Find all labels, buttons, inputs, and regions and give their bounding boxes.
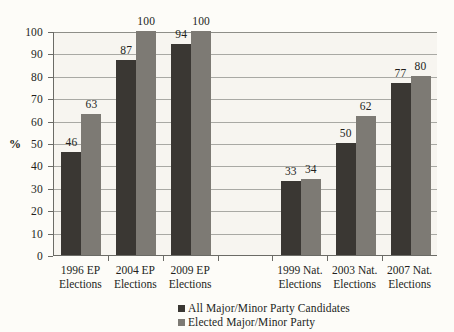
x-category-label: 2004 EPElections — [114, 264, 157, 291]
bar-value-label: 63 — [85, 98, 97, 110]
gridline — [54, 77, 437, 78]
bar-value-label: 62 — [360, 100, 372, 112]
x-category-label: 2007 Nat.Elections — [387, 264, 432, 291]
bar-value-label: 46 — [65, 136, 77, 148]
y-tick-label: 10 — [31, 228, 43, 240]
bar-value-label: 100 — [192, 15, 210, 27]
x-category-label-line: 1999 Nat. — [277, 264, 322, 278]
y-tick-mark — [48, 256, 53, 257]
gridline — [54, 189, 437, 190]
gridline — [54, 54, 437, 55]
x-category-label-line: 2004 EP — [114, 264, 157, 278]
x-category-label-line: Elections — [332, 278, 377, 292]
legend-swatch-icon — [178, 305, 185, 312]
bar-value-label: 100 — [137, 15, 155, 27]
plot-area: 46638710094100333450627780 — [53, 32, 437, 256]
bar-value-label: 94 — [175, 28, 187, 40]
bar-value-label: 33 — [285, 165, 297, 177]
y-tick-label: 100 — [25, 26, 43, 38]
bar-value-label: 80 — [415, 60, 427, 72]
x-tick-mark — [327, 256, 328, 261]
x-category-label: 2003 Nat.Elections — [332, 264, 377, 291]
bar-chart: 0102030405060708090100% 4663871009410033… — [0, 0, 454, 332]
x-category-label-line: Elections — [387, 278, 432, 292]
gridline — [54, 32, 437, 33]
bar: 63 — [81, 114, 101, 255]
gridline — [54, 166, 437, 167]
bar-group: 3334 — [281, 32, 321, 255]
bar: 100 — [191, 31, 211, 255]
legend-item[interactable]: All Major/Minor Party Candidates — [178, 301, 350, 315]
bar-group: 87100 — [116, 32, 156, 255]
gridline — [54, 144, 437, 145]
x-category-label-line: Elections — [114, 278, 157, 292]
gridline — [54, 211, 437, 212]
bar-value-label: 87 — [120, 44, 132, 56]
bar-value-label: 34 — [305, 163, 317, 175]
bar-value-label: 77 — [395, 67, 407, 79]
x-category-label: 1996 EPElections — [59, 264, 102, 291]
y-tick-label: 0 — [37, 250, 43, 262]
legend-swatch-icon — [178, 319, 185, 326]
x-category-label-line: 2009 EP — [169, 264, 212, 278]
y-axis: 0102030405060708090100% — [0, 0, 53, 332]
bar: 62 — [356, 116, 376, 255]
x-tick-mark — [218, 256, 219, 261]
y-tick-label: 30 — [31, 183, 43, 195]
bar: 94 — [171, 44, 191, 255]
bar: 80 — [411, 76, 431, 255]
x-category-label: 2009 EPElections — [169, 264, 212, 291]
gridline — [54, 234, 437, 235]
bar-group: 94100 — [171, 32, 211, 255]
x-category-label-line: 1996 EP — [59, 264, 102, 278]
y-tick-label: 40 — [31, 160, 43, 172]
chart-legend: All Major/Minor Party CandidatesElected … — [178, 301, 350, 329]
x-category-label-line: Elections — [59, 278, 102, 292]
y-tick-label: 80 — [31, 71, 43, 83]
legend-label: All Major/Minor Party Candidates — [188, 302, 350, 314]
y-axis-title: % — [9, 137, 21, 152]
x-tick-mark — [163, 256, 164, 261]
y-tick-label: 20 — [31, 205, 43, 217]
bar-group: 4663 — [61, 32, 101, 255]
x-tick-mark — [382, 256, 383, 261]
bar: 50 — [336, 143, 356, 255]
x-category-label-line: Elections — [169, 278, 212, 292]
bar: 100 — [136, 31, 156, 255]
x-tick-mark — [272, 256, 273, 261]
bar-group: 5062 — [336, 32, 376, 255]
bar: 77 — [391, 83, 411, 255]
x-category-label: 1999 Nat.Elections — [277, 264, 322, 291]
bar: 34 — [301, 179, 321, 255]
gridline — [54, 99, 437, 100]
y-tick-label: 60 — [31, 116, 43, 128]
x-category-label-line: Elections — [277, 278, 322, 292]
gridline — [54, 122, 437, 123]
y-tick-label: 50 — [31, 138, 43, 150]
legend-label: Elected Major/Minor Party — [188, 316, 315, 328]
bar: 46 — [61, 152, 81, 255]
y-tick-label: 90 — [31, 48, 43, 60]
y-tick-label: 70 — [31, 93, 43, 105]
bar: 33 — [281, 181, 301, 255]
x-category-label-line: 2007 Nat. — [387, 264, 432, 278]
x-tick-mark — [108, 256, 109, 261]
x-category-label-line: 2003 Nat. — [332, 264, 377, 278]
bar-group: 7780 — [391, 32, 431, 255]
bar-value-label: 50 — [340, 127, 352, 139]
legend-item[interactable]: Elected Major/Minor Party — [178, 315, 350, 329]
bar: 87 — [116, 60, 136, 255]
